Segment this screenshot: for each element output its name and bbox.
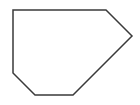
shape-svg bbox=[0, 0, 140, 105]
hexagon-shape bbox=[13, 10, 132, 95]
figure-canvas bbox=[0, 0, 140, 105]
